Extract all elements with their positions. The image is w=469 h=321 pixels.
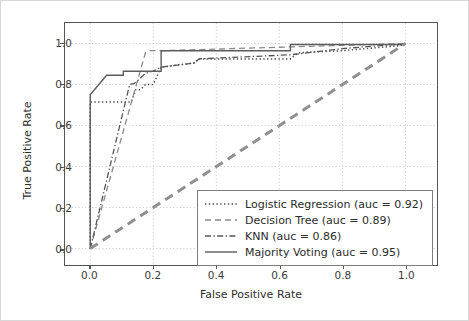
legend-item[interactable]: Majority Voting (auc = 0.95) bbox=[204, 244, 425, 260]
y-tick-label: 0.8 bbox=[55, 78, 72, 90]
y-axis-label: True Positive Rate bbox=[21, 81, 34, 221]
legend-label: KNN (auc = 0.86) bbox=[245, 230, 341, 243]
legend-line-sample-dashdot bbox=[204, 230, 238, 242]
y-tick-label: 0.0 bbox=[55, 243, 72, 255]
x-tick-label: 1.0 bbox=[398, 269, 415, 281]
x-tick-label: 0.0 bbox=[81, 269, 98, 281]
legend-box: Logistic Regression (auc = 0.92)Decision… bbox=[197, 190, 433, 266]
x-axis-label: False Positive Rate bbox=[64, 288, 438, 301]
x-tick-label: 0.6 bbox=[271, 269, 288, 281]
y-tick-label: 0.4 bbox=[55, 161, 72, 173]
legend-item[interactable]: Logistic Regression (auc = 0.92) bbox=[204, 196, 425, 212]
legend-label: Logistic Regression (auc = 0.92) bbox=[245, 198, 423, 211]
legend-label: Majority Voting (auc = 0.95) bbox=[245, 246, 400, 259]
roc-curve-figure: 0.00.20.40.60.81.0 0.00.20.40.60.81.0 Fa… bbox=[0, 0, 469, 321]
x-tick-label: 0.4 bbox=[208, 269, 225, 281]
legend-line-sample-solid bbox=[204, 246, 238, 258]
y-tick-label: 1.0 bbox=[55, 37, 72, 49]
legend-item[interactable]: Decision Tree (auc = 0.89) bbox=[204, 212, 425, 228]
legend-item[interactable]: KNN (auc = 0.86) bbox=[204, 228, 425, 244]
x-tick-label: 0.8 bbox=[335, 269, 352, 281]
x-tick-label: 0.2 bbox=[144, 269, 161, 281]
y-tick-label: 0.2 bbox=[55, 202, 72, 214]
legend-line-sample-dotted bbox=[204, 198, 238, 210]
y-tick-label: 0.6 bbox=[55, 119, 72, 131]
legend-line-sample-dashed bbox=[204, 214, 238, 226]
legend-label: Decision Tree (auc = 0.89) bbox=[245, 214, 391, 227]
